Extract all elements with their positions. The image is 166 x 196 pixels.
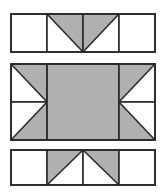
quilt-pattern-diagram bbox=[0, 0, 166, 196]
top-cell-1 bbox=[11, 14, 47, 52]
figure-root: Geometric Quilt Block Pattern Three stac… bbox=[0, 0, 166, 196]
top-band bbox=[11, 14, 155, 52]
middle-center-rectangle bbox=[47, 64, 119, 140]
bottom-band bbox=[11, 150, 155, 185]
bottom-cell-1 bbox=[11, 150, 47, 185]
bottom-cell-4 bbox=[119, 150, 155, 185]
middle-band bbox=[11, 64, 155, 140]
top-cell-4 bbox=[119, 14, 155, 52]
